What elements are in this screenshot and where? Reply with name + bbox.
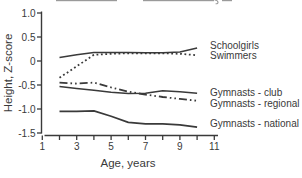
- y-tick-label: -1.5: [18, 128, 36, 139]
- y-axis-title: Height, Z-score: [2, 34, 14, 113]
- y-tick-label: -0.5: [18, 80, 36, 91]
- x-tick-label: 3: [74, 141, 80, 152]
- y-tick-label: 0: [30, 56, 36, 67]
- series-lines: [60, 48, 198, 127]
- series-line-gymnasts-club: [60, 86, 198, 93]
- x-tick-label: 1: [40, 141, 46, 152]
- series-line-swimmers: [60, 53, 198, 78]
- y-tick-label: -1.0: [18, 104, 36, 115]
- x-tick-label: 9: [177, 141, 183, 152]
- legend-label-swimmers: Swimmers: [210, 50, 257, 61]
- x-axis-ticks: 1357911: [40, 136, 220, 152]
- legend-label-gymnasts-club: Gymnasts - club: [210, 87, 283, 98]
- x-tick-label: 7: [143, 141, 149, 152]
- x-tick-label: 5: [108, 141, 114, 152]
- x-axis-title: Age, years: [101, 157, 156, 169]
- series-line-gymnasts-national: [60, 111, 198, 127]
- clipped-title-fragment: [56, 0, 232, 4]
- line-chart: 1.00.50-0.5-1.0-1.5 1357911 SchoolgirlsS…: [0, 0, 302, 178]
- figure: 1.00.50-0.5-1.0-1.5 1357911 SchoolgirlsS…: [0, 0, 302, 178]
- x-tick-label: 11: [209, 141, 220, 152]
- legend-label-gymnasts-national: Gymnasts - national: [210, 118, 299, 129]
- clipped-letter-descender: [215, 0, 218, 4]
- legend-label-gymnasts-regional: Gymnasts - regional: [210, 98, 299, 109]
- legend: SchoolgirlsSwimmersGymnasts - clubGymnas…: [210, 40, 299, 129]
- y-tick-label: 0.5: [22, 32, 36, 43]
- y-tick-label: 1.0: [22, 8, 36, 19]
- y-axis-ticks: 1.00.50-0.5-1.0-1.5: [18, 8, 41, 139]
